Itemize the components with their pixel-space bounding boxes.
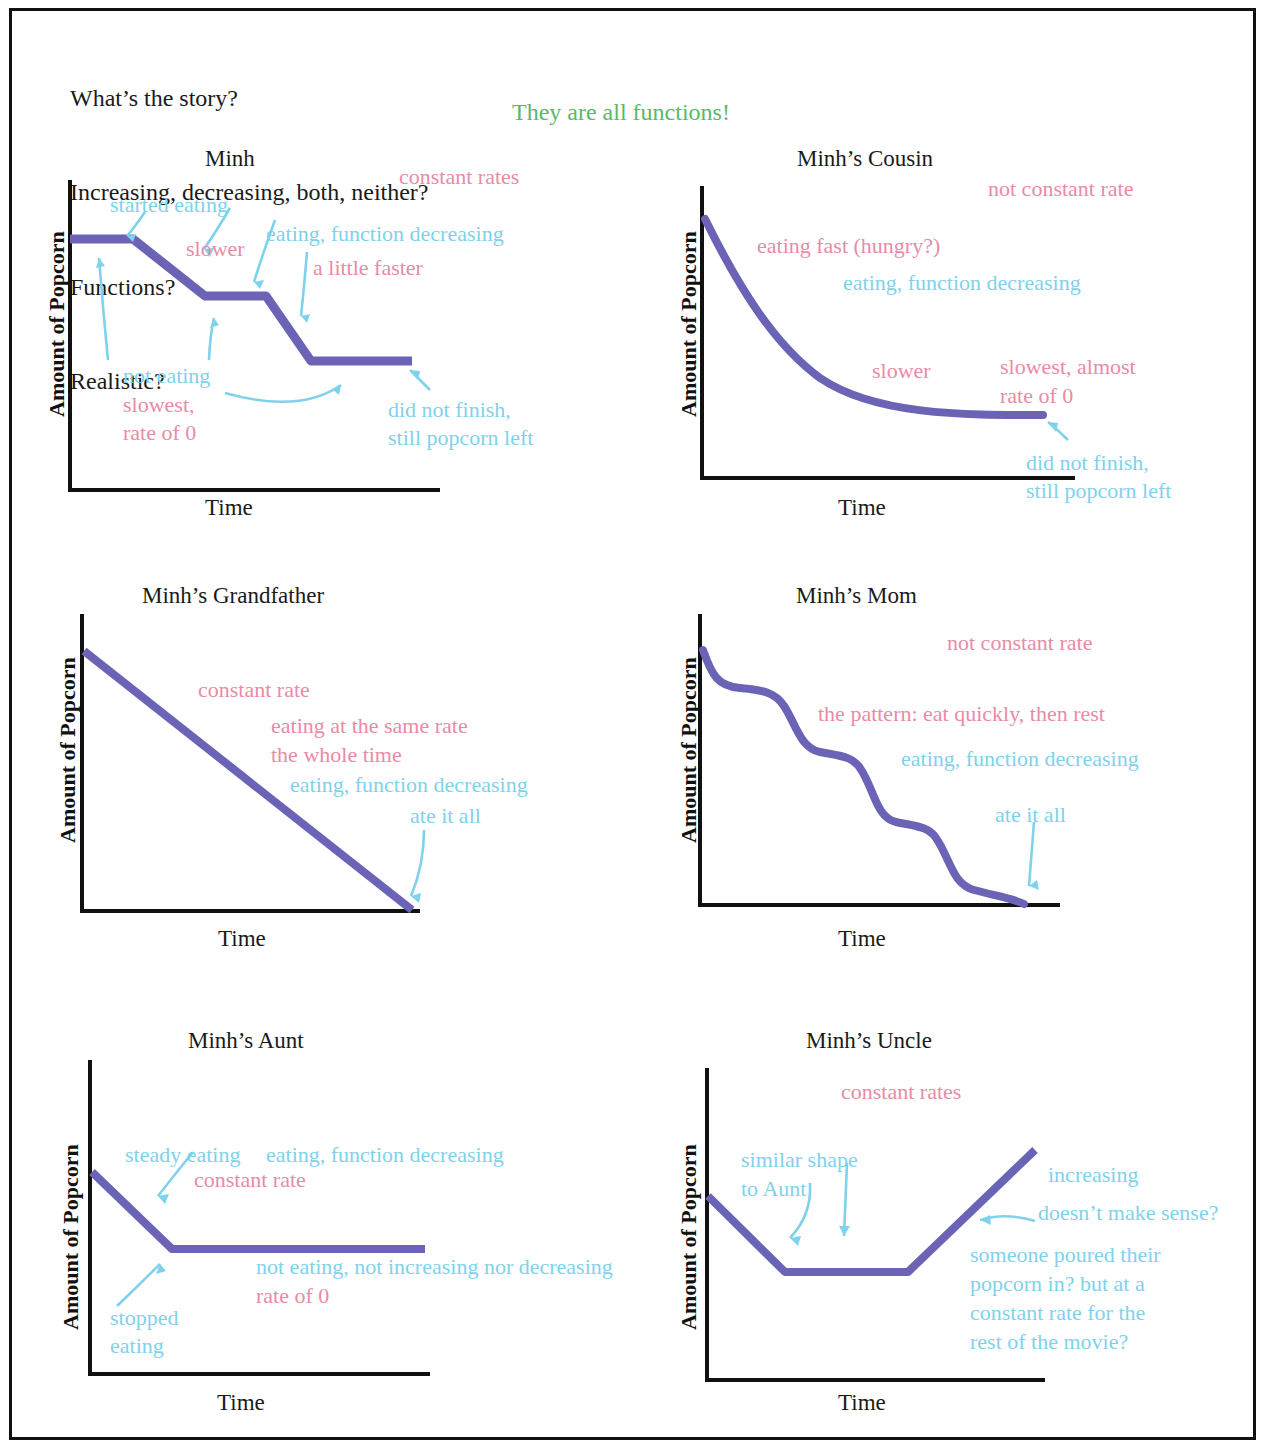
annotation-uncle-rest-of-movie: rest of the movie? [970,1329,1128,1356]
worksheet-page: What’s the story? Increasing, decreasing… [0,0,1265,1451]
annotation-arrows-uncle [790,1163,1035,1246]
annotation-uncle-to-aunt: to Aunt [741,1176,806,1203]
annotation-uncle-constant-rates: constant rates [841,1079,961,1106]
annotation-uncle-constant-rate-for: constant rate for the [970,1300,1145,1327]
plot-uncle [0,0,1265,1451]
annotation-uncle-popcorn-in: popcorn in? but at a [970,1271,1145,1298]
annotation-uncle-someone-poured: someone poured their [970,1242,1161,1269]
annotation-uncle-doesnt-make-sense: doesn’t make sense? [1038,1200,1218,1227]
annotation-uncle-increasing: increasing [1048,1162,1138,1189]
annotation-uncle-similar-shape: similar shape [741,1147,858,1174]
